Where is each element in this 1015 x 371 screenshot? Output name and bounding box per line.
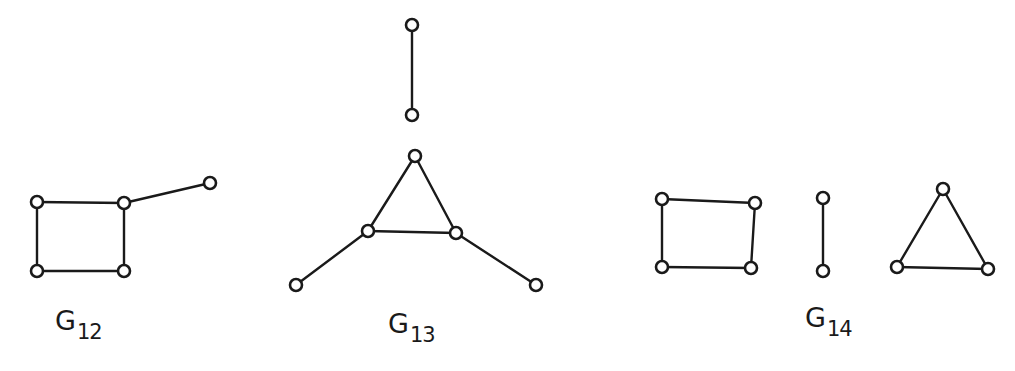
vertex bbox=[406, 109, 418, 121]
vertex bbox=[745, 262, 757, 274]
graph-label-main: G bbox=[805, 302, 826, 333]
vertex bbox=[118, 265, 130, 277]
vertex bbox=[937, 183, 949, 195]
vertex bbox=[749, 197, 761, 209]
vertex bbox=[817, 192, 829, 204]
edge bbox=[897, 189, 943, 267]
edge bbox=[456, 233, 536, 285]
graph-label-g13: G13 bbox=[388, 310, 435, 337]
graph-label-main: G bbox=[388, 308, 409, 339]
vertex bbox=[982, 263, 994, 275]
graph-figure bbox=[0, 0, 1015, 371]
edge bbox=[415, 156, 456, 233]
vertex bbox=[891, 261, 903, 273]
vertex bbox=[450, 227, 462, 239]
graph-label-main: G bbox=[55, 305, 76, 336]
vertex bbox=[118, 197, 130, 209]
edge bbox=[296, 231, 368, 285]
vertex bbox=[656, 261, 668, 273]
vertex bbox=[406, 19, 418, 31]
vertex bbox=[817, 265, 829, 277]
graph-label-subscript: 12 bbox=[77, 320, 102, 344]
vertex bbox=[530, 279, 542, 291]
edge bbox=[37, 202, 124, 203]
edge bbox=[897, 267, 988, 269]
graph-g13-nodes bbox=[290, 19, 542, 291]
vertex bbox=[204, 177, 216, 189]
vertex bbox=[31, 265, 43, 277]
vertex bbox=[409, 150, 421, 162]
edge bbox=[751, 203, 755, 268]
graph-g14-nodes bbox=[656, 183, 994, 277]
vertex bbox=[656, 193, 668, 205]
vertex bbox=[362, 225, 374, 237]
graph-label-g14: G14 bbox=[805, 304, 852, 331]
graph-label-subscript: 13 bbox=[410, 323, 435, 347]
nodes-layer bbox=[31, 19, 994, 291]
edge bbox=[368, 156, 415, 231]
vertex bbox=[290, 279, 302, 291]
edge bbox=[662, 199, 755, 203]
edge bbox=[368, 231, 456, 233]
graph-label-g12: G12 bbox=[55, 307, 102, 334]
edge bbox=[943, 189, 988, 269]
edge bbox=[662, 267, 751, 268]
vertex bbox=[31, 196, 43, 208]
graph-label-subscript: 14 bbox=[827, 317, 852, 341]
edge bbox=[124, 183, 210, 203]
edges-layer bbox=[37, 25, 988, 285]
